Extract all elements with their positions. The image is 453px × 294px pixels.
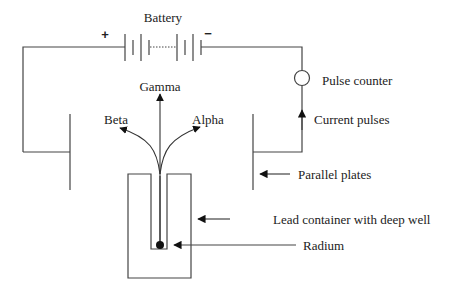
alpha-label: Alpha [192, 112, 224, 127]
battery-label: Battery [144, 10, 183, 25]
radium-label: Radium [303, 238, 344, 253]
pulse-counter-icon [295, 71, 310, 86]
pulse-counter-label: Pulse counter [322, 73, 393, 88]
circuit-wire [23, 47, 302, 152]
alpha-ray-arrow-icon [160, 127, 200, 174]
radium-source-icon [156, 241, 164, 249]
battery-symbol [125, 34, 201, 61]
lead-container-label: Lead container with deep well [273, 212, 431, 227]
gamma-label: Gamma [139, 79, 180, 94]
current-pulses-label: Current pulses [314, 112, 389, 127]
beta-ray-arrow-icon [120, 128, 160, 174]
positive-terminal-sign: + [101, 27, 109, 42]
beta-label: Beta [104, 112, 128, 127]
negative-terminal-sign: − [204, 26, 212, 41]
parallel-plates-label: Parallel plates [298, 167, 371, 182]
radioactivity-diagram: Battery + − Pulse counter Current pulses… [0, 0, 453, 294]
